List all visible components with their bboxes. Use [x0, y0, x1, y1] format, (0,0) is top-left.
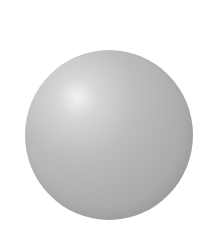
gray-sphere	[25, 50, 193, 220]
